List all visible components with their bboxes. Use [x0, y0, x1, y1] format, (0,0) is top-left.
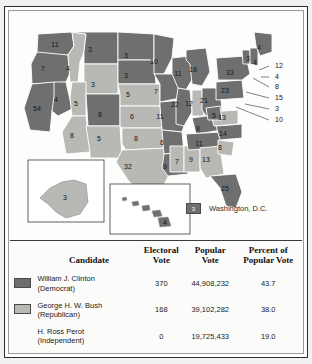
party-color-swatch-democrat	[14, 278, 31, 288]
popular-vote-cell: 39,102,282	[182, 297, 238, 323]
electoral-vote-cell: 168	[141, 297, 182, 323]
table-row: William J. Clinton(Democrat)37044,908,23…	[14, 270, 298, 296]
state-value-ar: 6	[160, 139, 164, 146]
percent-popular-vote-cell: 43.7	[238, 270, 298, 296]
state-value-mt: 3	[88, 46, 92, 53]
header-percent-popular-vote: Percent of Popular Vote	[238, 246, 298, 270]
state-value-ne: 5	[126, 91, 130, 98]
leader-value-nj: 15	[275, 94, 283, 101]
results-table-wrap: Candidate Electoral Vote Popular Vote Pe…	[14, 246, 298, 350]
election-results-table: Candidate Electoral Vote Popular Vote Pe…	[14, 246, 298, 349]
state-co	[86, 94, 120, 126]
state-value-ky: 8	[196, 125, 200, 132]
state-or	[31, 52, 70, 84]
state-value-az: 8	[70, 132, 74, 139]
header-electoral-vote: Electoral Vote	[141, 246, 182, 270]
header-swatch	[14, 246, 37, 270]
state-value-wy: 3	[91, 81, 95, 88]
state-hi-island-3	[152, 210, 162, 217]
state-value-id: 4	[66, 65, 70, 72]
results-table-body: William J. Clinton(Democrat)37044,908,23…	[14, 270, 298, 349]
state-value-mn: 10	[150, 58, 158, 65]
header-percent-line2: Popular Vote	[238, 256, 298, 266]
state-value-ca: 54	[33, 105, 41, 112]
electoral-vote-cell: 370	[141, 270, 182, 296]
legend-washington-dc: 3 Washington, D.C.	[186, 203, 268, 214]
state-nm	[86, 126, 122, 158]
state-value-tx: 32	[124, 163, 132, 170]
header-electoral-vote-line2: Vote	[141, 256, 182, 266]
party-color-swatch-none	[14, 331, 29, 339]
leader-value-md: 10	[275, 116, 283, 123]
state-value-sd: 3	[124, 72, 128, 79]
state-value-ga: 13	[202, 156, 210, 163]
state-value-nh: 4	[253, 59, 257, 66]
state-value-ak: 3	[63, 194, 67, 201]
state-value-ia: 7	[154, 88, 158, 95]
state-value-in: 12	[185, 100, 193, 107]
row-swatch-cell	[14, 270, 37, 296]
percent-popular-vote-cell: 19.0	[238, 323, 298, 349]
state-hi-island-1	[132, 201, 139, 206]
leader-value-ri: 4	[275, 73, 279, 80]
row-swatch-cell	[14, 323, 37, 349]
state-value-wa: 11	[51, 41, 58, 48]
state-value-nv: 4	[54, 96, 58, 103]
state-value-ny: 33	[226, 69, 234, 76]
header-candidate: Candidate	[37, 246, 140, 270]
state-value-co: 8	[98, 111, 102, 118]
state-value-nd: 3	[124, 52, 128, 59]
state-value-vt: 3	[246, 55, 250, 62]
popular-vote-cell: 44,908,232	[182, 270, 238, 296]
percent-popular-vote-cell: 38.0	[238, 297, 298, 323]
candidate-name: George H. W. Bush	[37, 301, 140, 310]
leader-value-de: 3	[275, 105, 279, 112]
state-value-me: 4	[257, 44, 261, 51]
candidate-cell: H. Ross Perot(Independent)	[37, 323, 140, 349]
state-value-ms: 7	[175, 158, 179, 165]
state-value-al: 9	[189, 156, 193, 163]
party-color-swatch-republican	[14, 304, 31, 314]
header-popular-vote: Popular Vote	[182, 246, 238, 270]
state-value-la: 9	[163, 163, 167, 170]
candidate-party: (Independent)	[37, 336, 140, 345]
state-ut	[70, 82, 86, 116]
candidate-cell: William J. Clinton(Democrat)	[37, 270, 140, 296]
state-hi-island-2	[142, 205, 150, 211]
candidate-cell: George H. W. Bush(Republican)	[37, 297, 140, 323]
election-map-figure: 124815310 34 117544433588533568321071169…	[0, 0, 312, 364]
state-wy	[84, 64, 118, 94]
leader-value-ct: 8	[275, 83, 279, 90]
state-value-mo: 11	[156, 113, 163, 120]
popular-vote-cell: 19,725,433	[182, 323, 238, 349]
state-value-pa: 23	[221, 87, 229, 94]
state-hi-island-0	[122, 197, 127, 201]
candidate-party: (Republican)	[37, 310, 140, 319]
state-value-mi: 18	[189, 66, 197, 73]
state-value-nm: 5	[97, 135, 101, 142]
candidate-party: (Democrat)	[37, 284, 140, 293]
state-value-tn: 11	[195, 140, 202, 147]
state-value-sc: 8	[218, 144, 222, 151]
state-value-or: 7	[41, 65, 45, 72]
table-header-row: Candidate Electoral Vote Popular Vote Pe…	[14, 246, 298, 270]
state-value-il: 22	[171, 101, 179, 108]
section-divider	[10, 240, 302, 241]
header-popular-vote-line2: Vote	[182, 256, 238, 266]
state-value-hi: 4	[163, 219, 167, 226]
state-value-oh: 21	[200, 97, 208, 104]
row-swatch-cell	[14, 297, 37, 323]
table-row: George H. W. Bush(Republican)16839,102,2…	[14, 297, 298, 323]
state-value-wv: 5	[212, 112, 216, 119]
table-row: H. Ross Perot(Independent)019,725,43319.…	[14, 323, 298, 349]
state-value-wi: 11	[174, 70, 181, 77]
legend-swatch-dc: 3	[186, 203, 201, 214]
candidate-name: William J. Clinton	[37, 274, 140, 283]
legend-label-dc: Washington, D.C.	[209, 204, 268, 213]
state-value-ut: 5	[74, 100, 78, 107]
leader-value-ma: 12	[275, 62, 283, 69]
state-value-nc: 14	[219, 130, 227, 137]
state-value-ks: 6	[130, 113, 134, 120]
electoral-vote-cell: 0	[141, 323, 182, 349]
candidate-name: H. Ross Perot	[37, 327, 140, 336]
